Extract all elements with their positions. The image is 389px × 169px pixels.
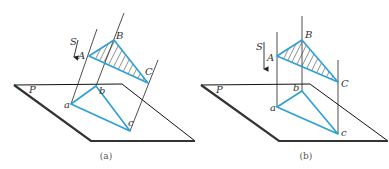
label-s: S (70, 36, 77, 47)
panel-b: S A B C P a b c (b) (201, 16, 388, 161)
label-C: C (145, 66, 153, 77)
label-c: c (341, 127, 347, 138)
triangle-abc (89, 40, 148, 83)
label-A: A (266, 52, 274, 63)
caption-b: (b) (300, 151, 313, 161)
panel-a: S A B C P a b c (a) (14, 13, 195, 161)
label-c: c (128, 117, 134, 128)
label-B: B (304, 29, 312, 40)
hatching (278, 30, 348, 86)
triangle-abc (277, 40, 338, 82)
label-a: a (270, 102, 276, 113)
hatching (90, 30, 160, 86)
label-P: P (215, 84, 223, 95)
label-b: b (99, 85, 105, 96)
label-P: P (28, 84, 36, 95)
label-b: b (293, 82, 299, 93)
label-B: B (115, 30, 123, 41)
caption-a: (a) (100, 151, 112, 161)
projection-diagram: S A B C P a b c (a) (0, 0, 389, 169)
label-C: C (341, 78, 349, 89)
label-A: A (77, 50, 85, 61)
label-a: a (64, 99, 70, 110)
label-s: S (256, 41, 263, 52)
